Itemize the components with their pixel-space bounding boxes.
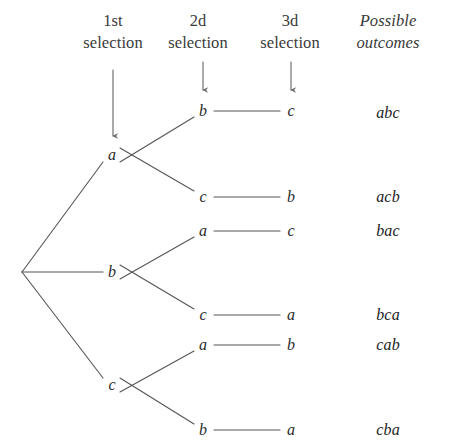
node-level1-a: a: [108, 146, 116, 164]
edge-root-to-node-level1-a: [22, 162, 103, 272]
outcome-acb: acb: [376, 188, 400, 206]
permutation-tree-figure: 1st selection2d selection3d selectionPos…: [0, 0, 450, 448]
edges-level1-to-level2: [120, 117, 194, 424]
edges-root-to-level1: [22, 162, 103, 378]
header-arrows-group: [113, 62, 291, 136]
node-level3-bac: c: [287, 222, 294, 240]
outcome-abc: abc: [376, 104, 400, 122]
edge-node-level1-c-to-node-level2-ca: [120, 351, 194, 392]
node-level3-abc: c: [287, 102, 294, 120]
edge-node-level1-a-to-node-level2-ac: [120, 148, 194, 191]
node-level2-ca: a: [199, 336, 207, 354]
header-second-selection: 2d selection: [168, 10, 228, 54]
node-level3-acb: b: [287, 188, 295, 206]
edge-node-level1-b-to-node-level2-ba: [120, 237, 194, 279]
node-level2-ba: a: [199, 222, 207, 240]
header-first-selection: 1st selection: [83, 10, 143, 54]
node-level1-c: c: [108, 376, 115, 394]
node-level2-ac: c: [199, 188, 206, 206]
outcome-cba: cba: [376, 421, 400, 439]
outcome-cab: cab: [376, 336, 400, 354]
header-third-selection: 3d selection: [260, 10, 320, 54]
edge-root-to-node-level1-c: [22, 272, 103, 378]
node-level3-cba: a: [287, 421, 295, 439]
node-level1-b: b: [108, 263, 116, 281]
node-level3-cab: b: [287, 336, 295, 354]
edge-node-level1-a-to-node-level2-ab: [120, 117, 194, 162]
edges-level2-to-level3: [214, 111, 280, 430]
node-level2-bc: c: [199, 306, 206, 324]
node-level2-cb: b: [199, 421, 207, 439]
node-level2-ab: b: [199, 102, 207, 120]
outcome-bca: bca: [376, 306, 400, 324]
header-possible-outcomes: Possible outcomes: [356, 10, 419, 54]
node-level3-bca: a: [287, 306, 295, 324]
edge-node-level1-b-to-node-level2-bc: [120, 265, 194, 309]
outcome-bac: bac: [376, 222, 400, 240]
edge-node-level1-c-to-node-level2-cb: [120, 378, 194, 424]
